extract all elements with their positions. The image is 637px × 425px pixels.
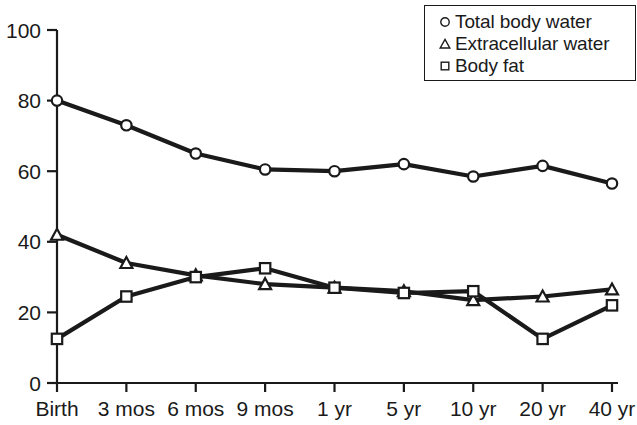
x-tick-label: 10 yr: [450, 397, 497, 420]
triangle-marker: [51, 229, 63, 240]
legend-label-total-body-water: Total body water: [455, 11, 592, 33]
y-tick-label: 100: [6, 19, 41, 42]
y-tick-label: 20: [18, 301, 41, 324]
x-tick-label: 40 yr: [589, 397, 636, 420]
circle-marker: [260, 164, 270, 174]
circle-marker: [607, 178, 617, 188]
y-tick-label: 40: [18, 230, 41, 253]
triangle-marker: [259, 278, 271, 289]
y-axis-ticks: [47, 30, 57, 383]
triangle-marker: [537, 291, 549, 302]
series-markers: [51, 95, 618, 344]
circle-marker: [121, 120, 131, 130]
circle-marker: [191, 148, 201, 158]
square-marker: [435, 59, 455, 73]
x-tick-label: 20 yr: [519, 397, 566, 420]
x-axis-tick-labels: Birth3 mos6 mos9 mos1 yr5 yr10 yr20 yr40…: [35, 397, 635, 420]
x-tick-label: 9 mos: [237, 397, 294, 420]
x-tick-label: 6 mos: [167, 397, 224, 420]
square-marker: [537, 334, 547, 344]
x-tick-label: 3 mos: [98, 397, 155, 420]
circle-marker: [399, 159, 409, 169]
triangle-marker: [435, 37, 455, 51]
x-tick-label: 5 yr: [386, 397, 421, 420]
square-marker: [468, 286, 478, 296]
square-marker: [52, 334, 62, 344]
circle-marker: [329, 166, 339, 176]
legend-entry-total-body-water: Total body water: [435, 11, 629, 33]
square-marker: [121, 291, 131, 301]
x-axis-ticks: [57, 383, 612, 392]
circle-marker: [537, 161, 547, 171]
legend-label-extracellular-water: Extracellular water: [455, 33, 609, 55]
chart-legend: Total body water Extracellular water Bod…: [424, 5, 636, 81]
legend-entry-body-fat: Body fat: [435, 55, 629, 77]
y-tick-label: 60: [18, 160, 41, 183]
legend-label-body-fat: Body fat: [455, 55, 524, 77]
y-tick-label: 0: [29, 372, 41, 395]
triangle-marker: [120, 257, 132, 268]
legend-entry-extracellular-water: Extracellular water: [435, 33, 629, 55]
series-lines: [57, 101, 612, 339]
chart-figure: 020406080100 Birth3 mos6 mos9 mos1 yr5 y…: [0, 0, 637, 425]
y-axis-tick-labels: 020406080100: [6, 19, 41, 395]
circle-marker: [435, 15, 455, 29]
circle-marker: [52, 95, 62, 105]
circle-marker: [468, 171, 478, 181]
triangle-marker: [606, 283, 618, 294]
x-tick-label: 1 yr: [317, 397, 352, 420]
square-marker: [260, 263, 270, 273]
square-marker: [607, 300, 617, 310]
x-tick-label: Birth: [35, 397, 78, 420]
square-marker: [191, 272, 201, 282]
y-tick-label: 80: [18, 89, 41, 112]
square-marker: [329, 282, 339, 292]
series-line: [57, 268, 612, 339]
square-marker: [399, 288, 409, 298]
